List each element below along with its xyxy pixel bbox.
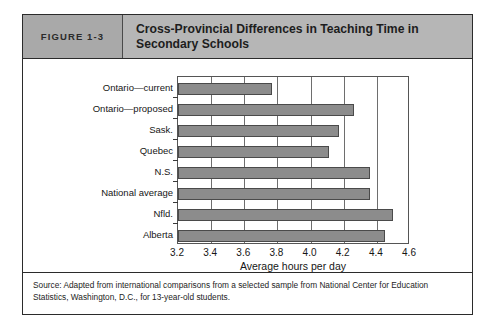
figure-container: FIGURE 1-3 Cross-Provincial Differences …	[22, 14, 473, 315]
bar	[178, 209, 393, 221]
x-tick-label: 3.4	[203, 247, 217, 258]
x-tick-label: 4.0	[303, 247, 317, 258]
bar	[178, 146, 329, 158]
bar	[178, 167, 370, 179]
bar-fill	[178, 83, 272, 95]
category-label: Ontario—current	[103, 82, 173, 94]
y-tick-mark	[173, 139, 178, 140]
bar-fill	[178, 188, 370, 200]
y-tick-mark	[173, 181, 178, 182]
plot-frame	[177, 76, 409, 244]
bar-fill	[178, 167, 370, 179]
category-label: Sask.	[149, 124, 173, 136]
bar-fill	[178, 125, 339, 137]
category-label: Nfld.	[153, 208, 173, 220]
figure-header: FIGURE 1-3 Cross-Provincial Differences …	[23, 15, 472, 59]
y-tick-mark	[173, 223, 178, 224]
y-tick-mark	[173, 118, 178, 119]
x-tick-label: 3.2	[170, 247, 184, 258]
category-label: Quebec	[140, 145, 173, 157]
x-tick-label: 4.6	[402, 247, 416, 258]
category-label: N.S.	[155, 166, 173, 178]
category-axis-labels: Ontario—currentOntario—proposedSask.Queb…	[23, 76, 173, 244]
bar	[178, 104, 354, 116]
y-tick-mark	[173, 202, 178, 203]
x-axis-title: Average hours per day	[177, 260, 409, 272]
x-tick-label: 3.8	[269, 247, 283, 258]
bar-fill	[178, 230, 385, 242]
y-tick-mark	[173, 160, 178, 161]
figure-number-label: FIGURE 1-3	[41, 31, 104, 42]
category-label: National average	[101, 187, 173, 199]
category-label: Ontario—proposed	[93, 103, 173, 115]
bar-fill	[178, 209, 393, 221]
bar-fill	[178, 104, 354, 116]
category-label: Alberta	[143, 229, 173, 241]
bar	[178, 83, 272, 95]
source-note: Source: Adapted from international compa…	[23, 272, 472, 314]
x-tick-label: 4.4	[369, 247, 383, 258]
figure-number-cell: FIGURE 1-3	[23, 15, 123, 58]
figure-title: Cross-Provincial Differences in Teaching…	[123, 15, 472, 58]
bar	[178, 188, 370, 200]
y-tick-mark	[173, 97, 178, 98]
bar	[178, 125, 339, 137]
x-tick-label: 3.6	[236, 247, 250, 258]
x-tick-label: 4.2	[336, 247, 350, 258]
bar-fill	[178, 146, 329, 158]
chart-area: Ontario—currentOntario—proposedSask.Queb…	[23, 59, 472, 272]
bar	[178, 230, 385, 242]
